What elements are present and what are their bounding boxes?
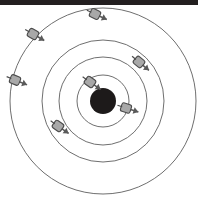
atom-diagram-svg <box>0 0 198 200</box>
scan-edge-band <box>0 0 198 5</box>
nucleus-icon <box>90 88 116 114</box>
atom-diagram-figure <box>0 0 198 200</box>
